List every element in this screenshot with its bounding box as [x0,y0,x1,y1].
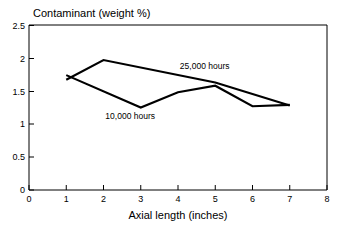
x-tick-label-7: 7 [287,194,292,204]
x-tick-label-4: 4 [175,194,180,204]
x-tick-label-1: 1 [64,194,69,204]
chart-figure: 0 0.5 1 1.5 2 2.5 0 1 2 3 4 5 6 7 8 Cont… [0,0,341,227]
series-label-10000-hours: 10,000 hours [105,111,155,121]
x-tick-label-6: 6 [250,194,255,204]
x-tick-label-5: 5 [213,194,218,204]
y-tick-label-2: 2 [20,54,25,64]
y-tick-label-1: 1 [20,119,25,129]
series-line-10000-hours [66,75,290,107]
x-tick-label-3: 3 [138,194,143,204]
series-label-25000-hours: 25,000 hours [180,61,230,71]
chart-title: Contaminant (weight %) [33,7,150,19]
x-tick-label-0: 0 [26,194,31,204]
x-axis-ticks [29,185,327,190]
y-tick-label-2-5: 2.5 [12,21,25,31]
y-tick-label-0-5: 0.5 [12,152,25,162]
y-tick-label-1-5: 1.5 [12,87,25,97]
y-axis-ticks [29,26,34,191]
y-tick-label-0: 0 [20,185,25,195]
x-tick-label-2: 2 [101,194,106,204]
x-axis-title: Axial length (inches) [128,209,227,221]
x-tick-label-8: 8 [324,194,329,204]
contaminant-line-chart: 0 0.5 1 1.5 2 2.5 0 1 2 3 4 5 6 7 8 Cont… [0,0,341,227]
plot-frame [29,25,327,190]
series-line-25000-hours [66,60,290,106]
